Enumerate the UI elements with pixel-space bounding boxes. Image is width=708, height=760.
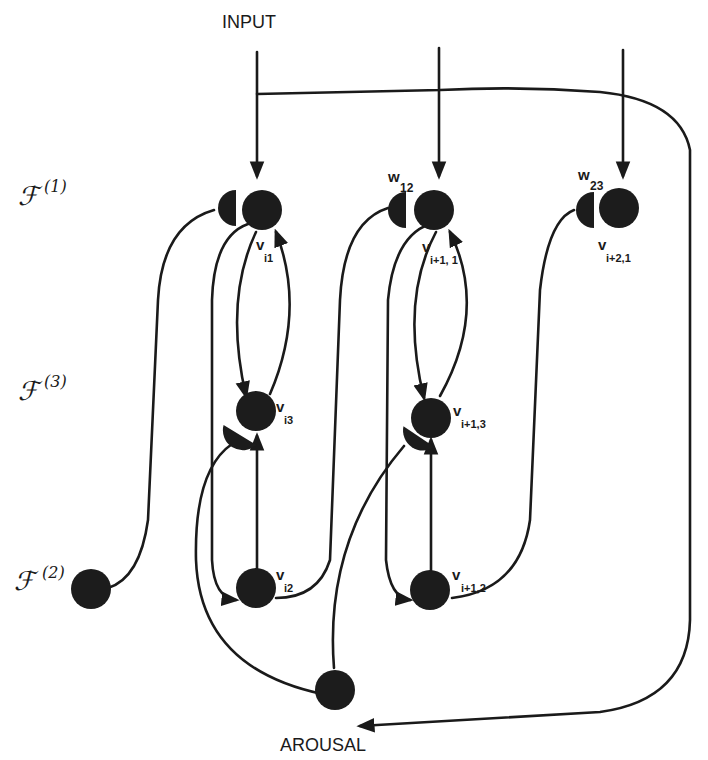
svg-text:w: w <box>577 166 590 183</box>
layer-label-f3: ℱ (3) <box>18 372 67 406</box>
svg-text:i1: i1 <box>264 252 273 264</box>
node-label-v-i2: v i2 <box>276 566 293 594</box>
node-v-i+1-1 <box>414 190 454 230</box>
synapse-w12 <box>388 192 406 228</box>
svg-text:i+1, 1: i+1, 1 <box>430 254 458 266</box>
svg-text:v: v <box>276 566 285 583</box>
svg-text:v: v <box>422 238 431 255</box>
svg-text:i+1,2: i+1,2 <box>461 582 486 594</box>
svg-text:w: w <box>387 168 400 185</box>
diagram-svg: INPUT ℱ (1) ℱ (3) ℱ (2) <box>0 0 708 760</box>
svg-text:(2): (2) <box>42 563 65 582</box>
node-f2-left <box>71 569 111 609</box>
input-arrows <box>257 48 623 176</box>
svg-text:v: v <box>453 402 462 419</box>
layer-label-f2: ℱ (2) <box>14 563 65 596</box>
svg-text:12: 12 <box>400 181 414 195</box>
weight-label-w23: w 23 <box>577 166 604 193</box>
node-v-i3 <box>236 391 276 431</box>
column-2-connections <box>333 210 574 668</box>
node-v-i+2-1 <box>599 188 639 228</box>
node-label-v-i3: v i3 <box>276 398 293 426</box>
svg-text:i2: i2 <box>284 582 293 594</box>
network-diagram: INPUT ℱ (1) ℱ (3) ℱ (2) <box>0 0 708 760</box>
arousal-input-path <box>257 88 690 726</box>
node-v-i+1-3 <box>411 398 451 438</box>
node-label-v-i+1-3: v i+1,3 <box>453 402 486 430</box>
svg-text:23: 23 <box>590 179 604 193</box>
svg-text:v: v <box>256 236 265 253</box>
synapse-v-i1 <box>218 190 236 226</box>
svg-text:v: v <box>598 236 607 253</box>
weight-label-w12: w 12 <box>387 168 414 195</box>
node-label-v-i+1-1: v i+1, 1 <box>422 238 458 266</box>
input-label: INPUT <box>222 12 276 32</box>
node-v-i+1-2 <box>410 570 450 610</box>
synapse-w23 <box>576 192 594 228</box>
column-1-connections <box>108 208 388 694</box>
node-label-v-i1: v i1 <box>256 236 273 264</box>
svg-text:v: v <box>452 566 461 583</box>
nodes <box>71 188 639 710</box>
arousal-label: AROUSAL <box>280 735 366 755</box>
svg-text:ℱ: ℱ <box>18 181 43 211</box>
node-label-v-i+1-2: v i+1,2 <box>452 566 486 594</box>
layer-label-f1: ℱ (1) <box>18 177 67 211</box>
svg-text:ℱ: ℱ <box>18 376 43 406</box>
svg-text:i+1,3: i+1,3 <box>461 418 486 430</box>
svg-text:(3): (3) <box>44 372 67 391</box>
node-arousal <box>315 670 355 710</box>
svg-text:i3: i3 <box>284 414 293 426</box>
svg-text:i+2,1: i+2,1 <box>606 252 631 264</box>
svg-text:v: v <box>276 398 285 415</box>
svg-text:ℱ: ℱ <box>14 566 39 596</box>
svg-text:(1): (1) <box>44 177 67 196</box>
node-v-i2 <box>236 568 276 608</box>
node-label-v-i+2-1: v i+2,1 <box>598 236 631 264</box>
node-v-i1 <box>242 190 282 230</box>
